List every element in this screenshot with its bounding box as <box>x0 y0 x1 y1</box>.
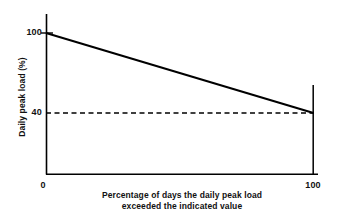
x-axis-title-line-1: Percentage of days the daily peak load <box>46 190 318 201</box>
x-axis-title: Percentage of days the daily peak load e… <box>46 190 318 212</box>
y-tick-label-100: 100 <box>24 27 42 37</box>
x-tick-label-100: 100 <box>300 180 326 190</box>
y-axis-title: Daily peak load (%) <box>17 37 27 157</box>
load-duration-curve <box>46 33 314 113</box>
x-tick-label-0: 0 <box>36 180 50 190</box>
x-axis-title-line-2: exceeded the indicated value <box>46 201 318 212</box>
chart-figure: 100 40 0 100 Daily peak load (%) Percent… <box>0 0 353 214</box>
